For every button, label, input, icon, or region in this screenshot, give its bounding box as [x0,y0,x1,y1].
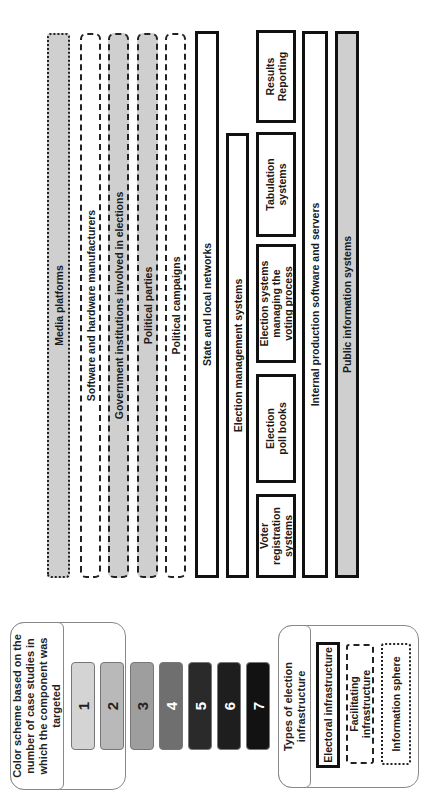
poll-books-label: Election poll books [264,399,288,459]
state-local-networks-bar: State and local networks [195,31,219,578]
color-swatch-7: 7 [246,662,270,750]
color-swatch-label: 4 [163,702,180,710]
public-information-bar: Public information systems [335,31,359,578]
tabulation-box: Tabulation systems [256,132,296,237]
government-institutions-bar: Government institutions involved in elec… [108,33,129,578]
software-hardware-bar: Software and hardware manufacturers [80,33,101,578]
public-information-label: Public information systems [341,236,353,373]
color-swatch-label: 7 [250,702,267,710]
internal-production-bar: Internal production software and servers [302,31,328,578]
legend-electoral-infrastructure: Electoral infrastructure [316,642,340,768]
results-reporting-label: Results Reporting [264,49,288,104]
election-management-label: Election management systems [232,279,244,432]
color-swatch-4: 4 [159,662,183,750]
election-management-bar: Election management systems [226,133,249,578]
voter-registration-label: Voter registration systems [258,501,294,571]
legend-information-sphere: Information sphere [381,643,411,765]
color-swatch-1: 1 [71,662,95,750]
color-swatch-3: 3 [130,662,154,750]
poll-books-box: Election poll books [256,374,296,483]
types-legend-title: Types of election infrastructure [278,625,311,788]
color-swatch-label: 2 [104,702,121,710]
legend-facilitating-infrastructure: Facilitating infrastructure [346,644,374,764]
legend-electoral-label: Electoral infrastructure [322,647,334,763]
state-local-networks-label: State and local networks [201,243,213,366]
color-swatch-label: 5 [192,702,209,710]
voting-process-box: Election systems managing the voting pro… [256,244,296,363]
legend-facilitating-label: Facilitating infrastructure [348,664,372,744]
political-campaigns-bar: Political campaigns [165,33,186,578]
political-parties-bar: Political parties [137,33,158,578]
color-swatch-label: 3 [134,702,151,710]
tabulation-label: Tabulation systems [264,155,288,215]
government-institutions-label: Government institutions involved in elec… [113,192,125,420]
diagram-canvas: Media platforms Software and hardware ma… [0,0,435,799]
color-swatch-5: 5 [188,662,212,750]
voter-registration-box: Voter registration systems [256,494,296,578]
color-scheme-title: Color scheme based on the number of case… [10,622,64,790]
media-platforms-label: Media platforms [53,265,65,346]
color-scheme-title-text: Color scheme based on the number of case… [11,631,63,781]
color-swatch-label: 6 [221,702,238,710]
voting-process-label: Election systems managing the voting pro… [258,254,294,354]
color-swatch-label: 1 [75,702,92,710]
color-swatch-6: 6 [217,662,241,750]
software-hardware-label: Software and hardware manufacturers [85,210,97,401]
internal-production-label: Internal production software and servers [309,203,321,407]
political-campaigns-label: Political campaigns [170,256,182,354]
political-parties-label: Political parties [142,267,154,345]
color-swatch-2: 2 [100,662,124,750]
legend-information-label: Information sphere [390,656,402,751]
media-platforms-bar: Media platforms [47,33,70,578]
types-legend-title-text: Types of election infrastructure [282,652,308,762]
results-reporting-box: Results Reporting [256,30,296,123]
